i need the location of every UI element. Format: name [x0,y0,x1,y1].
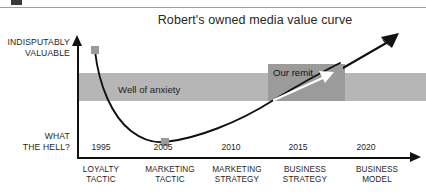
category-0-line2: TACTIC [64,175,138,185]
category-2-line2: STRATEGY [200,175,274,185]
remit-arrow-shaft [274,76,327,100]
category-4-line1: BUSINESS [340,165,414,175]
category-loyalty-tactic: LOYALTY TACTIC [64,165,138,186]
category-2-line1: MARKETING [200,165,274,175]
x-tick-2015: 2015 [278,142,318,152]
category-marketing-tactic: MARKETING TACTIC [133,165,207,186]
category-4-line2: MODEL [340,175,414,185]
category-1-line2: TACTIC [133,175,207,185]
category-3-line2: STRATEGY [268,175,342,185]
category-0-line1: LOYALTY [64,165,138,175]
category-business-strategy: BUSINESS STRATEGY [268,165,342,186]
marker-1995 [91,46,99,54]
category-business-model: BUSINESS MODEL [340,165,414,186]
marker-2015 [335,66,343,74]
x-tick-2020: 2020 [346,142,386,152]
x-tick-2010: 2010 [211,142,251,152]
x-tick-1995: 1995 [81,142,121,152]
category-marketing-strategy: MARKETING STRATEGY [200,165,274,186]
category-3-line1: BUSINESS [268,165,342,175]
category-1-line1: MARKETING [133,165,207,175]
remit-arrowhead-icon [319,71,334,83]
growth-arrow-shaft [336,42,388,72]
x-tick-2005: 2005 [143,142,183,152]
figure-canvas: Robert's owned media value curve Well of… [0,0,426,195]
value-curve-path [95,51,340,142]
